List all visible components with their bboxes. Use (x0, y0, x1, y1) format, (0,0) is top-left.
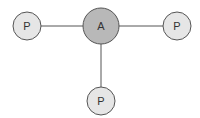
node-p-left: P (13, 12, 41, 40)
node-a: A (83, 8, 119, 44)
node-p-right: P (163, 12, 191, 40)
node-p-right-label: P (173, 20, 180, 32)
node-p-bottom: P (87, 87, 115, 115)
node-p-left-label: P (23, 20, 30, 32)
star-diagram: A P P P (0, 0, 200, 118)
node-p-bottom-label: P (97, 95, 104, 107)
node-a-label: A (97, 20, 105, 32)
